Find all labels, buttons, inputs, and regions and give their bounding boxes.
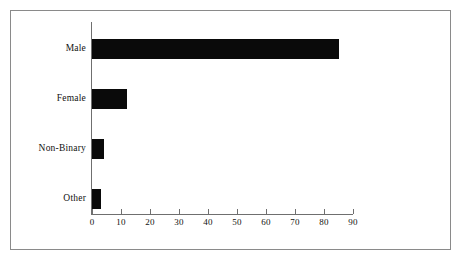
- x-axis-tick: [150, 209, 151, 214]
- x-axis-tick: [237, 209, 238, 214]
- x-axis-tick-label: 90: [338, 217, 368, 227]
- x-axis-tick: [92, 209, 93, 214]
- x-axis-tick-label: 70: [280, 217, 310, 227]
- x-axis-tick-label: 20: [135, 217, 165, 227]
- x-axis-tick-label: 0: [77, 217, 107, 227]
- x-axis-tick: [324, 209, 325, 214]
- bar: [92, 139, 104, 159]
- x-axis-tick: [295, 209, 296, 214]
- plot-area: 0102030405060708090 MaleFemaleNon-Binary…: [11, 11, 450, 249]
- bar: [92, 189, 101, 209]
- x-axis-tick: [179, 209, 180, 214]
- category-label: Female: [57, 93, 86, 103]
- x-axis-tick: [353, 209, 354, 214]
- x-axis-tick-label: 30: [164, 217, 194, 227]
- chart-figure: 0102030405060708090 MaleFemaleNon-Binary…: [10, 10, 451, 250]
- x-axis-tick-label: 60: [251, 217, 281, 227]
- x-axis-tick-label: 40: [193, 217, 223, 227]
- category-label: Other: [63, 193, 86, 203]
- x-axis-line: [91, 214, 353, 215]
- bar: [92, 89, 127, 109]
- x-axis-tick-label: 10: [106, 217, 136, 227]
- x-axis-tick-label: 80: [309, 217, 339, 227]
- bar: [92, 39, 339, 59]
- x-axis-tick-label: 50: [222, 217, 252, 227]
- x-axis-tick: [266, 209, 267, 214]
- x-axis-tick: [121, 209, 122, 214]
- category-label: Non-Binary: [39, 143, 86, 153]
- category-label: Male: [66, 43, 86, 53]
- x-axis-tick: [208, 209, 209, 214]
